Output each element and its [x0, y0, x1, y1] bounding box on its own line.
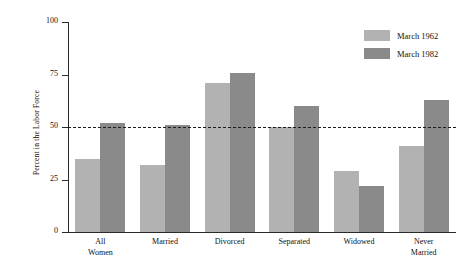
bar: [165, 125, 190, 232]
y-tick-label: 100: [46, 16, 58, 25]
legend: March 1962March 1982: [364, 30, 438, 59]
y-tick-label: 75: [50, 69, 58, 78]
legend-swatch: [364, 30, 390, 41]
x-axis-label-line: Women: [40, 247, 160, 258]
bar: [359, 186, 384, 232]
legend-item: March 1982: [364, 48, 438, 59]
y-tick-label: 50: [50, 121, 58, 130]
bar: [230, 73, 255, 232]
legend-label: March 1962: [397, 31, 438, 41]
bar: [140, 165, 165, 232]
reference-line-50: [68, 127, 456, 128]
bar: [399, 146, 424, 232]
x-axis-label-line: Married: [364, 247, 464, 258]
bar: [424, 100, 449, 232]
y-tick-label: 0: [54, 226, 58, 235]
legend-item: March 1962: [364, 30, 438, 41]
legend-swatch: [364, 48, 390, 59]
bar-chart: Percent in the Labor Force 0255075100 Al…: [0, 0, 464, 275]
bar: [294, 106, 319, 232]
y-tick-label: 25: [50, 174, 58, 183]
x-axis-line: [68, 232, 456, 233]
x-axis-label-line: Never: [364, 236, 464, 247]
bar: [334, 171, 359, 232]
y-tick: 0: [62, 232, 68, 233]
bar: [100, 123, 125, 232]
bar: [269, 127, 294, 232]
legend-label: March 1982: [397, 49, 438, 59]
x-axis-label: NeverMarried: [364, 236, 464, 258]
bar: [75, 159, 100, 233]
y-axis-title: Percent in the Labor Force: [32, 53, 41, 213]
bar: [205, 83, 230, 232]
